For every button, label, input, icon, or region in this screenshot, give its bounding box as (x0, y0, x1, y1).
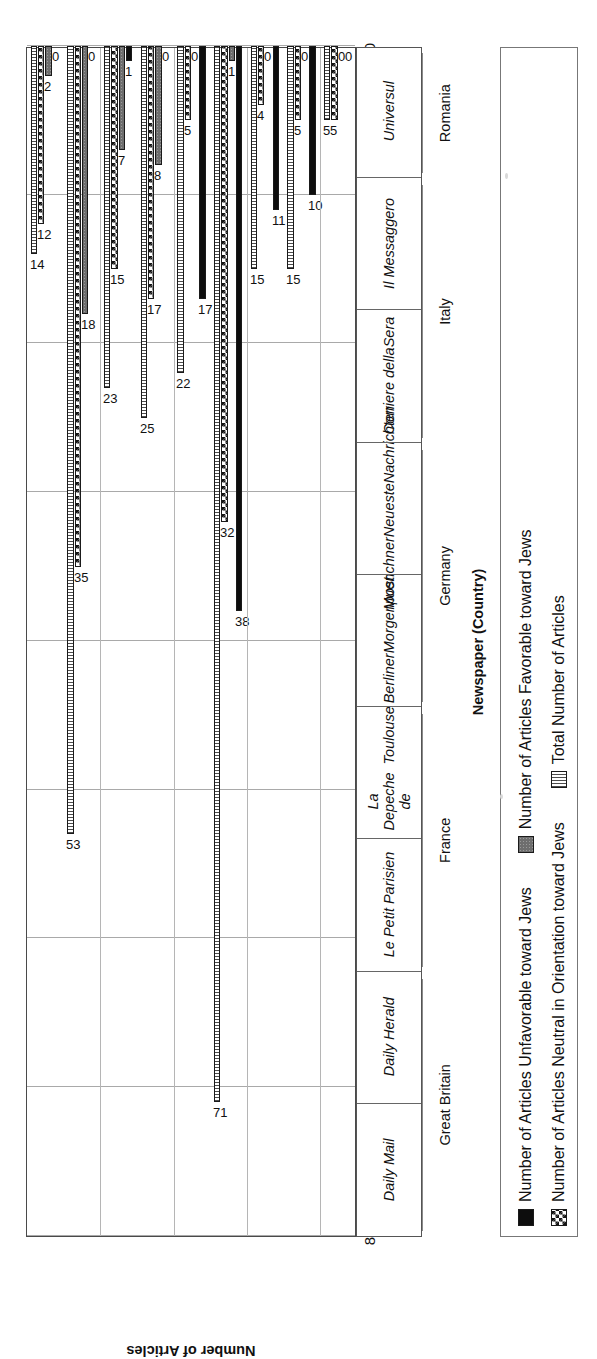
legend-item: Number of Articles Favorable toward Jews (517, 530, 535, 854)
bar-vertical-stripe-4 (177, 46, 183, 373)
bar-value-label: 35 (74, 570, 88, 585)
category-divider (357, 574, 421, 575)
bar-value-label: 23 (103, 391, 117, 406)
legend-item: Number of Articles Neutral in Orientatio… (550, 822, 568, 1226)
country-group-labels: Great BritainFranceGermanyItalyRomania (422, 47, 468, 1237)
bar-value-label: 5 (184, 123, 191, 138)
country-rule (422, 450, 423, 702)
bar-value-label: 14 (30, 257, 44, 272)
category-divider (357, 442, 421, 443)
gridline (27, 1235, 355, 1236)
bar-solid-black-6 (273, 46, 279, 210)
gridline (27, 640, 355, 641)
country-label: Romania (422, 47, 468, 179)
category-label: Daily Mail (357, 1104, 421, 1236)
category-axis-labels: Daily MailDaily HeraldLe Petit ParisienL… (356, 47, 422, 1237)
bar-vertical-stripe-8 (324, 46, 330, 120)
legend-swatch-black (518, 1209, 534, 1226)
country-rule (422, 185, 423, 437)
category-label: Le Petit Parisien (357, 838, 421, 971)
category-label: Universul (357, 45, 421, 178)
group-separator (100, 48, 101, 1236)
legend-item: Number of Articles Unfavorable toward Je… (517, 887, 535, 1226)
bar-value-label: 11 (272, 213, 286, 228)
bar-vertical-stripe-0 (31, 46, 37, 254)
category-divider (357, 971, 421, 972)
scan-speckle (500, 794, 503, 799)
legend-swatch-check (551, 1209, 567, 1226)
category-label: Daily Herald (357, 971, 421, 1104)
gridline (27, 938, 355, 939)
plot-area: 1412205335180231571251780225017713213815… (26, 47, 356, 1237)
bar-solid-black-5 (236, 46, 242, 611)
bar-value-label: 12 (37, 228, 51, 243)
bar-chart-figure: 1412205335180231571251780225017713213815… (0, 0, 597, 1359)
legend-swatch-stripe (551, 771, 567, 788)
bar-gray-dotted-2 (119, 46, 125, 150)
bar-checkerboard-8 (331, 46, 337, 120)
legend-label: Number of Articles Favorable toward Jews (517, 530, 535, 830)
bar-gray-dotted-3 (155, 46, 161, 165)
bar-value-label: 17 (147, 302, 161, 317)
country-label: France (422, 708, 468, 972)
bar-value-label: 0 (162, 49, 169, 64)
bar-value-label: 0 (338, 49, 345, 64)
country-rule (422, 979, 423, 1231)
bar-value-label: 2 (44, 79, 51, 94)
bar-value-label: 53 (66, 837, 80, 852)
legend-label: Number of Articles Unfavorable toward Je… (517, 887, 535, 1202)
bar-value-label: 22 (176, 376, 190, 391)
bar-solid-black-2 (126, 46, 132, 61)
legend-row: Number of Articles Unfavorable toward Je… (509, 58, 542, 1226)
group-separator (320, 48, 321, 1236)
bar-value-label: 0 (264, 49, 271, 64)
bar-value-label: 15 (110, 272, 124, 287)
country-label: Germany (422, 444, 468, 708)
bar-value-label: 1 (228, 64, 235, 79)
category-label: Corriere dellaSera (357, 309, 421, 442)
scan-speckle (505, 173, 508, 179)
country-label: Great Britain (422, 973, 468, 1237)
bar-value-label: 5 (330, 123, 337, 138)
legend-row: Number of Articles Neutral in Orientatio… (542, 58, 575, 1226)
bar-value-label: 32 (220, 525, 234, 540)
bar-value-label: 7 (118, 153, 125, 168)
bar-gray-dotted-0 (45, 46, 51, 76)
country-rule (422, 714, 423, 966)
category-label: La Depeche deToulouse (357, 706, 421, 839)
group-separator (174, 48, 175, 1236)
bar-vertical-stripe-6 (251, 46, 257, 269)
bar-value-label: 25 (140, 421, 154, 436)
gridline (27, 789, 355, 790)
bar-solid-black-7 (309, 46, 315, 195)
bar-vertical-stripe-1 (67, 46, 73, 834)
country-rule (422, 53, 423, 173)
bar-value-label: 8 (154, 168, 161, 183)
bar-vertical-stripe-5 (214, 46, 220, 1102)
category-label: MuenchnerNeuesteNachrichten (357, 442, 421, 575)
bar-checkerboard-1 (75, 46, 81, 567)
bar-solid-black-4 (199, 46, 205, 299)
legend-label: Total Number of Articles (550, 595, 568, 764)
group-separator (247, 48, 248, 1236)
gridline (27, 1086, 355, 1087)
bar-checkerboard-5 (221, 46, 227, 522)
bar-value-label: 0 (191, 49, 198, 64)
category-label: Il Messaggero (357, 177, 421, 310)
category-axis-title: Newspaper (Country) (470, 47, 486, 1237)
bar-vertical-stripe-7 (287, 46, 293, 269)
bar-value-label: 15 (286, 272, 300, 287)
category-divider (357, 838, 421, 839)
bar-value-label: 15 (250, 272, 264, 287)
bar-checkerboard-0 (38, 46, 44, 225)
bar-gray-dotted-5 (229, 46, 235, 61)
bar-checkerboard-2 (111, 46, 117, 269)
bar-value-label: 1 (125, 64, 132, 79)
bar-vertical-stripe-3 (141, 46, 147, 418)
bar-value-label: 5 (294, 123, 301, 138)
bar-value-label: 0 (301, 49, 308, 64)
value-axis-title: Number of Articles (26, 1343, 356, 1359)
bar-gray-dotted-1 (82, 46, 88, 314)
bar-value-label: 18 (81, 317, 95, 332)
rotated-figure-stage: 1412205335180231571251780225017713213815… (0, 0, 597, 1359)
